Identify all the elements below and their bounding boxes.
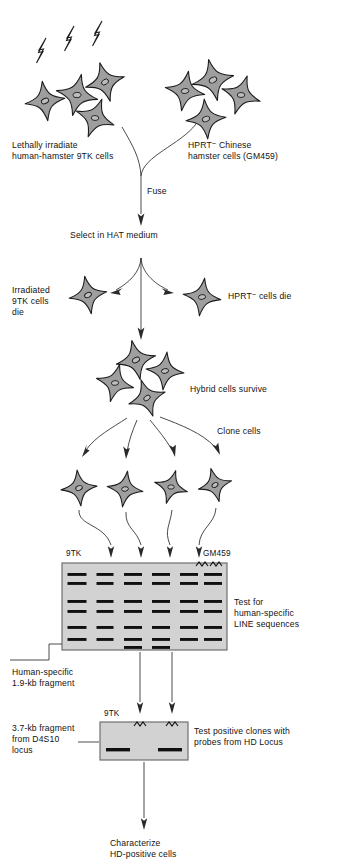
gel1-band-22 bbox=[152, 600, 170, 603]
fragment-1-9kb-leader bbox=[10, 644, 62, 660]
right-death-arrowhead bbox=[162, 288, 174, 295]
gel1-band-18 bbox=[124, 638, 142, 641]
gel1-band-23 bbox=[152, 610, 170, 613]
label-test-line-sequences: Test for human-specific LINE sequences bbox=[234, 597, 338, 631]
gel1-band-14 bbox=[124, 582, 142, 585]
label-gel1-lane-9tk: 9TK bbox=[66, 549, 81, 560]
label-clone-cells: Clone cells bbox=[217, 426, 261, 437]
gel2-background bbox=[100, 722, 188, 760]
gel1-band-33 bbox=[204, 573, 222, 576]
label-test-hd-probes: Test positive clones with probes from HD… bbox=[194, 726, 340, 748]
gel1-band-6 bbox=[68, 638, 87, 641]
gel1-band-20 bbox=[152, 573, 170, 576]
hprt-die-text-rest: cells die bbox=[256, 291, 291, 301]
cell-nucleus bbox=[168, 485, 175, 489]
label-select-hat-medium: Select in HAT medium bbox=[70, 230, 158, 241]
gel1-band-2 bbox=[68, 582, 87, 585]
hprt-dying-cell bbox=[181, 276, 224, 319]
hprt-die-text: HPRT bbox=[228, 291, 252, 301]
gel1-band-13 bbox=[124, 573, 142, 576]
label-hybrid-cells-survive: Hybrid cells survive bbox=[190, 384, 267, 395]
gel1-band-19 bbox=[124, 646, 142, 649]
gel1-band-37 bbox=[204, 626, 222, 629]
fuse-converging-arrow bbox=[122, 124, 196, 214]
cell-nucleus bbox=[73, 92, 81, 98]
fuse-arrowhead bbox=[138, 214, 145, 227]
gel1-band-1 bbox=[68, 573, 87, 576]
hprt-source-text: HPRT bbox=[188, 140, 212, 150]
label-fuse: Fuse bbox=[147, 186, 167, 197]
radiation-bolt-icon-2 bbox=[65, 26, 75, 51]
hd-locus-blot-panel bbox=[100, 722, 188, 760]
gel1-band-17 bbox=[124, 626, 142, 629]
gel1-band-9 bbox=[97, 600, 114, 603]
radiation-bolt-icons bbox=[37, 21, 103, 63]
label-human-specific-1-9kb: Human-specific 1.9-kb fragment bbox=[12, 667, 132, 689]
gel1-band-29 bbox=[180, 600, 198, 603]
left-death-arrowhead bbox=[110, 288, 122, 295]
line-sequence-blot-panel bbox=[62, 562, 227, 650]
radiation-bolt-icon-3 bbox=[93, 21, 103, 46]
gel1-band-7 bbox=[97, 573, 114, 576]
label-gel2-lane-9tk: 9TK bbox=[104, 709, 119, 720]
gel1-band-24 bbox=[152, 626, 170, 629]
cell-illustrations bbox=[22, 55, 266, 509]
gel1-band-11 bbox=[97, 626, 114, 629]
label-lethally-irradiate: Lethally irradiate human-hamster 9TK cel… bbox=[12, 140, 162, 162]
gel1-band-8 bbox=[97, 582, 114, 585]
clone-cell-4 bbox=[194, 464, 235, 505]
clone-fan-arrows bbox=[86, 417, 215, 452]
cell-nucleus bbox=[91, 115, 99, 120]
clone-cell-2 bbox=[105, 469, 146, 510]
gel1-band-25 bbox=[152, 638, 170, 641]
gel1-band-3 bbox=[68, 600, 87, 603]
gel1-inlet-curves bbox=[79, 508, 216, 545]
gel1-band-34 bbox=[204, 582, 222, 585]
gel1-inlet-arrowheads bbox=[108, 546, 202, 558]
gel1-band-5 bbox=[68, 626, 87, 629]
gel1-band-12 bbox=[97, 638, 114, 641]
gel1-band-27 bbox=[180, 573, 198, 576]
clone-arrowhead-3 bbox=[169, 445, 176, 457]
clone-arrowhead-2 bbox=[123, 446, 130, 459]
cell-nucleus bbox=[237, 93, 245, 98]
hprt-hamster-cell-4 bbox=[184, 97, 227, 140]
gel1-band-30 bbox=[180, 610, 198, 613]
hprt-hamster-cell-1 bbox=[162, 68, 208, 114]
gel2-band-1 bbox=[106, 748, 130, 751]
cell-nucleus bbox=[111, 380, 119, 385]
gel2-band-2 bbox=[158, 748, 182, 751]
irradiated-9tk-cell-1 bbox=[22, 78, 67, 123]
gel1-to-gel2-connectors bbox=[140, 652, 172, 702]
clone-cell-1 bbox=[59, 468, 99, 508]
label-hprt-chinese-hamster: HPRT− Chinese hamster cells (GM459) bbox=[188, 140, 338, 162]
gel1-band-16 bbox=[124, 610, 142, 613]
gel1-band-36 bbox=[204, 610, 222, 613]
gel1-band-21 bbox=[152, 582, 170, 585]
gel1-band-32 bbox=[180, 638, 198, 641]
label-3-7kb-d4s10: 3.7-kb fragment from D4S10 locus bbox=[12, 723, 92, 757]
gel1-band-38 bbox=[204, 638, 222, 641]
gel1-band-26 bbox=[152, 646, 170, 649]
gel1-band-31 bbox=[180, 626, 198, 629]
label-gel1-lane-gm459: GM459 bbox=[203, 549, 231, 560]
hat-selection-split-arrows bbox=[116, 258, 168, 330]
label-hprt-cells-die: HPRT− cells die bbox=[228, 291, 338, 302]
clone-cell-3 bbox=[150, 466, 192, 508]
cell-nucleus bbox=[181, 88, 189, 94]
label-characterize-hd-positive: Characterize HD-positive cells bbox=[110, 838, 240, 860]
gel2-inlet-arrowheads bbox=[137, 702, 175, 714]
gel1-background bbox=[62, 563, 227, 650]
gel1-band-15 bbox=[124, 600, 142, 603]
gel1-band-10 bbox=[97, 610, 114, 613]
label-irradiated-9tk-die: Irradiated 9TK cells die bbox=[12, 285, 78, 319]
gel1-band-35 bbox=[204, 600, 222, 603]
hprt-hamster-cell-2 bbox=[188, 55, 238, 105]
gel1-band-4 bbox=[68, 610, 87, 613]
gel1-band-28 bbox=[180, 582, 198, 585]
radiation-bolt-icon-1 bbox=[37, 38, 47, 63]
characterize-arrowhead bbox=[141, 818, 147, 830]
